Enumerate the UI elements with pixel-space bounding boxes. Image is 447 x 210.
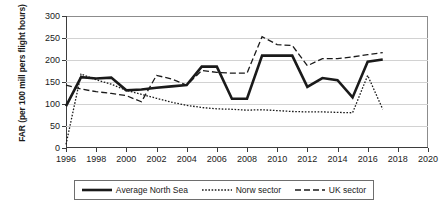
- legend-item[interactable]: UK sector: [295, 185, 366, 195]
- legend-item[interactable]: Norw sector: [202, 185, 281, 195]
- dashed-line-swatch: [295, 185, 325, 195]
- x-axis-tick: [66, 148, 67, 152]
- x-axis-tick: [398, 148, 399, 152]
- x-axis-tick: [217, 148, 218, 152]
- y-axis-title: FAR (per 100 mill pers flight hours): [17, 3, 27, 143]
- x-axis-tick-label: 2020: [418, 154, 438, 164]
- x-axis-tick-label: 2018: [388, 154, 408, 164]
- legend-item-label: UK sector: [329, 185, 366, 195]
- solid-line-swatch: [82, 185, 112, 195]
- far-line-chart: FAR (per 100 mill pers flight hours) 050…: [0, 0, 447, 210]
- y-axis-tick-label: 0: [55, 143, 60, 153]
- x-axis-tick-label: 2014: [327, 154, 347, 164]
- x-axis-tick: [428, 148, 429, 152]
- series-line-uk-sector: [66, 37, 383, 102]
- series-lines: [66, 16, 428, 148]
- series-line-average-north-sea: [66, 56, 383, 107]
- legend-item-label: Norw sector: [236, 185, 281, 195]
- dotted-line-swatch: [202, 185, 232, 195]
- x-axis-tick: [368, 148, 369, 152]
- y-axis-tick-label: 50: [50, 121, 60, 131]
- x-axis-tick: [187, 148, 188, 152]
- x-axis-tick-label: 2004: [177, 154, 197, 164]
- plot-area: 050100150200250300 199619982000200220042…: [66, 16, 428, 148]
- x-axis-tick-label: 2016: [358, 154, 378, 164]
- x-axis-tick: [277, 148, 278, 152]
- x-axis-tick: [307, 148, 308, 152]
- legend: Average North SeaNorw sectorUK sector: [74, 180, 374, 200]
- y-axis-tick-label: 100: [45, 99, 60, 109]
- legend-item[interactable]: Average North Sea: [82, 185, 188, 195]
- x-axis-tick: [96, 148, 97, 152]
- x-axis-tick-label: 2000: [116, 154, 136, 164]
- x-axis-tick: [247, 148, 248, 152]
- legend-item-label: Average North Sea: [116, 185, 188, 195]
- y-axis-tick-label: 150: [45, 77, 60, 87]
- x-axis-tick-label: 2008: [237, 154, 257, 164]
- x-axis-tick-label: 2012: [297, 154, 317, 164]
- x-axis-tick-label: 2002: [146, 154, 166, 164]
- x-axis-tick: [157, 148, 158, 152]
- x-axis-tick-label: 1996: [56, 154, 76, 164]
- x-axis-tick: [126, 148, 127, 152]
- x-axis-tick-label: 1998: [86, 154, 106, 164]
- x-axis-tick-label: 2006: [207, 154, 227, 164]
- y-axis-tick-label: 250: [45, 33, 60, 43]
- y-axis-tick-label: 300: [45, 11, 60, 21]
- x-axis-tick: [338, 148, 339, 152]
- y-axis-tick-label: 200: [45, 55, 60, 65]
- x-axis-tick-label: 2010: [267, 154, 287, 164]
